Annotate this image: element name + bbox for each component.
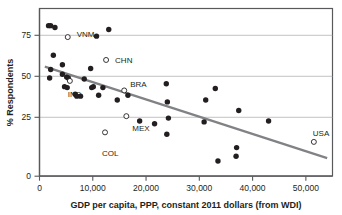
data-point — [48, 67, 53, 72]
data-point — [88, 66, 93, 71]
data-label-vnm: VNM — [77, 30, 95, 39]
data-point — [164, 81, 169, 86]
data-label-chn: CHN — [115, 56, 133, 65]
data-point-chn — [104, 57, 109, 62]
data-point — [234, 145, 239, 150]
data-label-ind: IND — [68, 90, 82, 99]
x-tick-label-0: 0 — [37, 183, 42, 193]
data-point — [100, 85, 105, 90]
data-point-usa — [311, 139, 316, 144]
data-point-col — [103, 130, 108, 135]
x-tick-label-20000: 20,000 — [133, 183, 159, 193]
y-tick-label-75: 75 — [22, 30, 32, 40]
x-tick-label-50000: 50,000 — [293, 183, 319, 193]
data-point — [236, 108, 241, 113]
data-point-vnm — [65, 35, 70, 40]
data-point-mex — [124, 114, 129, 119]
data-point — [215, 158, 220, 163]
data-point — [94, 33, 99, 38]
y-axis-title: % Respondents — [5, 59, 15, 127]
data-point — [152, 121, 157, 126]
y-tick-label-25: 25 — [22, 112, 32, 122]
data-point — [47, 75, 52, 80]
chart-canvas: 0 25 50 75 % Respondents 010,00020,00030… — [0, 0, 342, 215]
data-point — [164, 132, 169, 137]
y-tick-label-50: 50 — [22, 71, 32, 81]
data-point — [203, 97, 208, 102]
data-point — [51, 52, 56, 57]
scatter-chart-figure: 0 25 50 75 % Respondents 010,00020,00030… — [0, 0, 342, 215]
data-point — [82, 76, 87, 81]
y-axis-ticks — [35, 35, 40, 176]
data-point — [213, 86, 218, 91]
data-point-labels: VNMCHNINDBRAMEXCOLUSA — [68, 30, 330, 158]
data-point-bra — [122, 88, 127, 93]
y-tick-label-0: 0 — [26, 171, 31, 181]
data-label-usa: USA — [313, 129, 330, 138]
trendline — [45, 67, 327, 158]
y-axis-tick-labels: 0 25 50 75 — [22, 30, 32, 181]
x-tick-label-10000: 10,000 — [80, 183, 106, 193]
data-point — [96, 93, 101, 98]
data-point — [91, 84, 96, 89]
data-point — [60, 62, 65, 67]
x-tick-label-30000: 30,000 — [186, 183, 212, 193]
data-point — [115, 97, 120, 102]
data-point — [201, 119, 206, 124]
data-label-mex: MEX — [132, 124, 150, 133]
gridlines — [40, 35, 333, 117]
data-point — [233, 153, 238, 158]
data-point — [52, 25, 57, 30]
data-point — [137, 118, 142, 123]
data-point-ind — [67, 78, 72, 83]
data-label-col: COL — [102, 149, 119, 158]
data-point — [266, 118, 271, 123]
data-point — [125, 93, 130, 98]
x-tick-label-40000: 40,000 — [240, 183, 266, 193]
data-point — [165, 99, 170, 104]
x-axis-title: GDP per capita, PPP, constant 2011 dolla… — [70, 200, 301, 210]
data-point — [166, 115, 171, 120]
data-label-bra: BRA — [130, 80, 147, 89]
x-axis-ticks: 010,00020,00030,00040,00050,000 — [37, 176, 319, 193]
data-point — [106, 27, 111, 32]
